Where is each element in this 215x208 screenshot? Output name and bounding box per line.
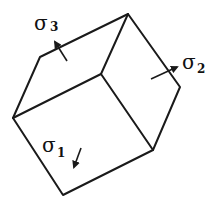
- svg-text:1: 1: [57, 146, 65, 160]
- sigma3-label: σ 3: [34, 11, 58, 35]
- sigma1-arrow-icon: [74, 148, 81, 167]
- sigma2-label: σ 2: [182, 50, 205, 76]
- svg-text:3: 3: [50, 20, 58, 34]
- svg-text:σ: σ: [182, 50, 196, 74]
- svg-text:2: 2: [197, 62, 205, 76]
- cube-edge-top: [101, 14, 128, 74]
- cube: [13, 14, 180, 195]
- stress-cube-diagram: σ 3 σ 2 σ 1: [0, 0, 215, 208]
- cube-edge-bottom: [101, 74, 153, 150]
- sigma1-label: σ 1: [42, 133, 65, 160]
- cube-edge-left: [13, 74, 101, 118]
- svg-text:σ: σ: [42, 133, 56, 157]
- svg-text:σ: σ: [34, 11, 48, 35]
